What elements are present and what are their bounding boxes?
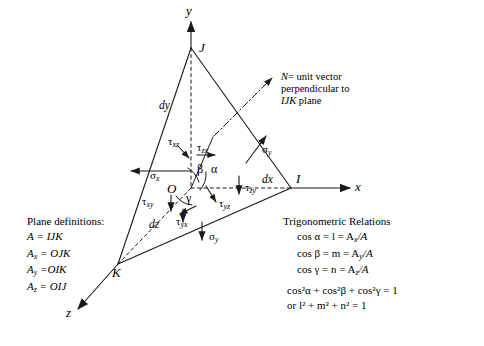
tau-xy-subscript: xy <box>146 200 153 209</box>
plane-definition-row: Ay =OIK <box>27 262 104 279</box>
plane-def-lhs: A <box>27 230 34 242</box>
tau-xz-arrow <box>178 146 189 158</box>
normal-note-line-1: N= unit vector <box>281 71 350 83</box>
normal-note-N: N <box>281 71 288 82</box>
trig-identity: cos²α + cos²β + cos²γ = 1 <box>287 283 398 298</box>
dz-label: dz <box>149 219 159 231</box>
sigma-y-face-label: σy <box>262 144 272 157</box>
sigma-x-label: σx <box>150 170 160 183</box>
vertex-K-label: K <box>112 266 121 279</box>
y-axis-label: y <box>186 4 192 17</box>
plane-def-sub: z <box>34 285 37 294</box>
trig-row-text: cos α = l = A <box>297 230 354 242</box>
plane-def-rhs: OJK <box>50 247 70 259</box>
tau-yx-label: τyx <box>176 216 188 229</box>
normal-vector-note: N= unit vector perpendicular to IJK plan… <box>281 71 350 106</box>
figure-canvas: y x z J I K O dy dx dz β α γ σx σy σy τx… <box>0 0 484 346</box>
angle-gamma-label: γ <box>186 192 191 204</box>
z-axis-label: z <box>66 306 71 319</box>
vertex-J-label: J <box>199 41 205 54</box>
plane-definition-row: A = IJK <box>27 229 104 246</box>
origin-label: O <box>167 182 176 195</box>
sigma-y-face-subscript: y <box>268 148 272 157</box>
plane-def-rhs: OIJ <box>50 280 67 292</box>
tau-zy-label: τzy <box>245 182 256 195</box>
dx-label: dx <box>262 174 273 186</box>
tau-yz-label: τyz <box>219 198 230 211</box>
plane-definition-row: Az = OIJ <box>27 279 104 296</box>
trig-row-tail: /A <box>363 247 373 259</box>
x-axis-label: x <box>355 180 361 193</box>
angle-alpha-label: α <box>211 163 217 175</box>
tau-zy-subscript: zy <box>249 186 256 195</box>
trig-row-cos-beta: cos β = m = Ay/A <box>297 246 398 263</box>
trig-row-text: cos β = m = A <box>297 247 359 259</box>
tau-xy-label: τxy <box>142 196 154 209</box>
sigma-y-bottom-subscript: y <box>215 235 219 244</box>
normal-note-plane-word: plane <box>299 95 322 106</box>
plane-def-sub: y <box>34 268 38 277</box>
tau-yx-subscript: yx <box>180 220 187 229</box>
trig-row-tail: /A <box>359 263 369 275</box>
trig-row-cos-gamma: cos γ = n = Az/A <box>297 262 398 279</box>
tau-zx-label: τzx <box>197 142 208 155</box>
tau-zx-subscript: zx <box>201 146 208 155</box>
trigonometric-relations-block: Trigonometric Relations cos α = l = Ax/A… <box>283 214 398 313</box>
tau-xz-label: τxz <box>168 136 179 149</box>
trig-row-tail: /A <box>358 230 368 242</box>
tau-yz-subscript: yz <box>223 202 230 211</box>
angle-beta-label: β <box>197 163 203 175</box>
plane-def-lhs: A <box>27 263 34 275</box>
plane-def-sub: x <box>34 252 38 261</box>
trig-row-text: cos γ = n = A <box>297 263 356 275</box>
dy-label: dy <box>159 100 170 112</box>
plane-definition-row: Ax = OJK <box>27 246 104 263</box>
plane-def-rhs: IJK <box>47 230 63 242</box>
normal-note-line-2: perpendicular to <box>281 83 350 95</box>
vertex-I-label: I <box>296 172 300 185</box>
plane-def-lhs: A <box>27 280 34 292</box>
trig-heading: Trigonometric Relations <box>283 214 398 229</box>
sigma-x-subscript: x <box>156 174 160 183</box>
trig-row-cos-alpha: cos α = l = Ax/A <box>297 229 398 246</box>
trig-identity-alt: or l² + m² + n² = 1 <box>287 298 398 313</box>
plane-def-rhs: OIK <box>47 263 66 275</box>
normal-note-IJK: IJK <box>281 95 296 106</box>
tau-xz-subscript: xz <box>172 140 179 149</box>
normal-vector-N <box>214 78 272 136</box>
plane-def-lhs: A <box>27 247 34 259</box>
sigma-y-bottom-label: σy <box>209 231 219 244</box>
tau-yx-arrow <box>180 206 196 214</box>
plane-definitions-heading: Plane definitions: <box>27 214 104 229</box>
normal-note-line-1-text: = unit vector <box>288 71 342 82</box>
normal-note-line-3: IJK plane <box>281 95 350 107</box>
plane-definitions-block: Plane definitions: A = IJK Ax = OJK Ay =… <box>27 214 104 296</box>
